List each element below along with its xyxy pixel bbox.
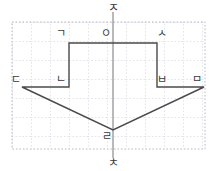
figure-container: ㅈ ㅊ ㄱ ㅇ ㅅ ㄷ ㄴ ㅂ ㅁ ㄹ: [0, 0, 214, 171]
arrow-polygon-figure: [0, 0, 214, 171]
vertex-label-nieun: ㄴ: [56, 74, 66, 85]
vertex-label-mieum: ㅁ: [192, 74, 202, 85]
vertex-label-digeut: ㄷ: [11, 74, 21, 85]
vertex-label-ieung: ㅇ: [101, 28, 111, 39]
axis-label-top-jieut: ㅈ: [108, 2, 119, 14]
vertex-label-siot: ㅅ: [157, 28, 167, 39]
vertex-label-rieul: ㄹ: [102, 131, 112, 142]
vertex-label-giyeok: ㄱ: [56, 28, 66, 39]
vertex-label-bieup: ㅂ: [157, 74, 167, 85]
axis-label-bottom-chieut: ㅊ: [108, 157, 119, 169]
